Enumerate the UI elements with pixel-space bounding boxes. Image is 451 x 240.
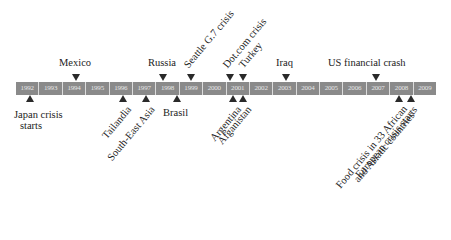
event-label-european-crisis: European crisis starts	[353, 104, 419, 180]
year-cell: 2005	[320, 82, 343, 95]
year-cell: 2004	[297, 82, 320, 95]
event-label-brasil: Brasil	[163, 107, 188, 118]
marker-down-icon	[226, 74, 234, 81]
event-label-us-crash: US financial crash	[328, 57, 406, 68]
year-cell: 2003	[273, 82, 296, 95]
year-cell: 2002	[250, 82, 273, 95]
marker-up-icon	[229, 95, 237, 102]
marker-up-icon	[407, 95, 415, 102]
year-cell: 1993	[39, 82, 62, 95]
year-cell: 1998	[156, 82, 179, 95]
year-cell: 1994	[63, 82, 86, 95]
marker-up-icon	[119, 95, 127, 102]
year-cell: 2008	[390, 82, 413, 95]
year-cell: 1999	[180, 82, 203, 95]
event-label-iraq: Iraq	[276, 57, 293, 68]
marker-up-icon	[142, 95, 150, 102]
marker-down-icon	[187, 74, 195, 81]
marker-down-icon	[239, 74, 247, 81]
year-cell: 2009	[414, 82, 436, 95]
timeline-bar: 1992 1993 1994 1995 1996 1997 1998 1999 …	[16, 82, 436, 95]
marker-down-icon	[159, 74, 167, 81]
marker-down-icon	[72, 74, 80, 81]
year-cell: 2000	[203, 82, 226, 95]
year-cell: 1995	[86, 82, 109, 95]
year-cell: 1996	[110, 82, 133, 95]
marker-up-icon	[395, 95, 403, 102]
marker-up-icon	[239, 95, 247, 102]
year-cell: 2006	[343, 82, 366, 95]
marker-up-icon	[173, 95, 181, 102]
event-label-japan: Japan crisis starts	[14, 109, 48, 131]
marker-down-icon	[372, 74, 380, 81]
year-cell: 1997	[133, 82, 156, 95]
event-label-mexico: Mexico	[59, 57, 91, 68]
event-label-food-line1: Food crisis in 33 African	[334, 104, 409, 190]
year-cell: 2007	[367, 82, 390, 95]
event-label-russia: Russia	[148, 57, 176, 68]
marker-down-icon	[282, 74, 290, 81]
year-cell: 1992	[16, 82, 39, 95]
year-cell: 2001	[227, 82, 250, 95]
marker-up-icon	[26, 95, 34, 102]
event-label-japan-line2: starts	[14, 120, 48, 131]
event-label-japan-line1: Japan crisis	[14, 109, 48, 120]
